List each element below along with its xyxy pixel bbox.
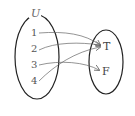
element-2: 2 bbox=[31, 43, 37, 54]
element-4: 4 bbox=[31, 75, 37, 86]
domain-set-label: U bbox=[31, 7, 41, 20]
mapping-diagram: U 1 2 3 4 T F bbox=[0, 0, 135, 116]
element-1: 1 bbox=[31, 27, 37, 38]
element-3: 3 bbox=[31, 59, 37, 70]
arrow-3-to-F bbox=[39, 62, 99, 70]
codomain-element-T: T bbox=[103, 40, 111, 53]
codomain-element-F: F bbox=[102, 65, 110, 78]
